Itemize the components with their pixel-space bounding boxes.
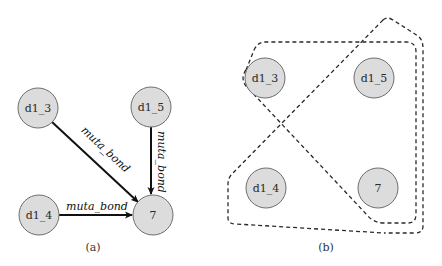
edge-label-d1_5-7: muta_bond — [155, 131, 168, 193]
node-d1_3: d1_3 — [245, 58, 285, 98]
node-d1_5: d1_5 — [354, 58, 394, 98]
node-7: 7 — [358, 168, 398, 208]
node-label: d1_3 — [25, 102, 52, 115]
node-d1_4: d1_4 — [19, 195, 59, 235]
node-label: 7 — [375, 182, 382, 195]
node-label: 7 — [150, 209, 157, 222]
node-d1_4: d1_4 — [246, 168, 286, 208]
caption-a: (a) — [85, 241, 100, 254]
node-label: d1_5 — [361, 72, 388, 85]
edge-label-d1_4-7: muta_bond — [66, 200, 128, 213]
node-d1_3: d1_3 — [18, 88, 58, 128]
panel-b: d1_3 d1_5 d1_4 7 (b) — [228, 18, 423, 254]
diagram-canvas: muta_bond muta_bond muta_bond d1_3 d1_5 … — [0, 0, 442, 266]
panel-a: muta_bond muta_bond muta_bond d1_3 d1_5 … — [18, 87, 173, 254]
node-d1_5: d1_5 — [131, 87, 171, 127]
node-label: d1_5 — [138, 101, 165, 114]
edge-label-d1_3-7: muta_bond — [78, 124, 132, 176]
node-label: d1_4 — [26, 209, 53, 222]
node-label: d1_4 — [253, 182, 280, 195]
node-7: 7 — [133, 195, 173, 235]
caption-b: (b) — [318, 241, 334, 254]
node-label: d1_3 — [252, 72, 279, 85]
